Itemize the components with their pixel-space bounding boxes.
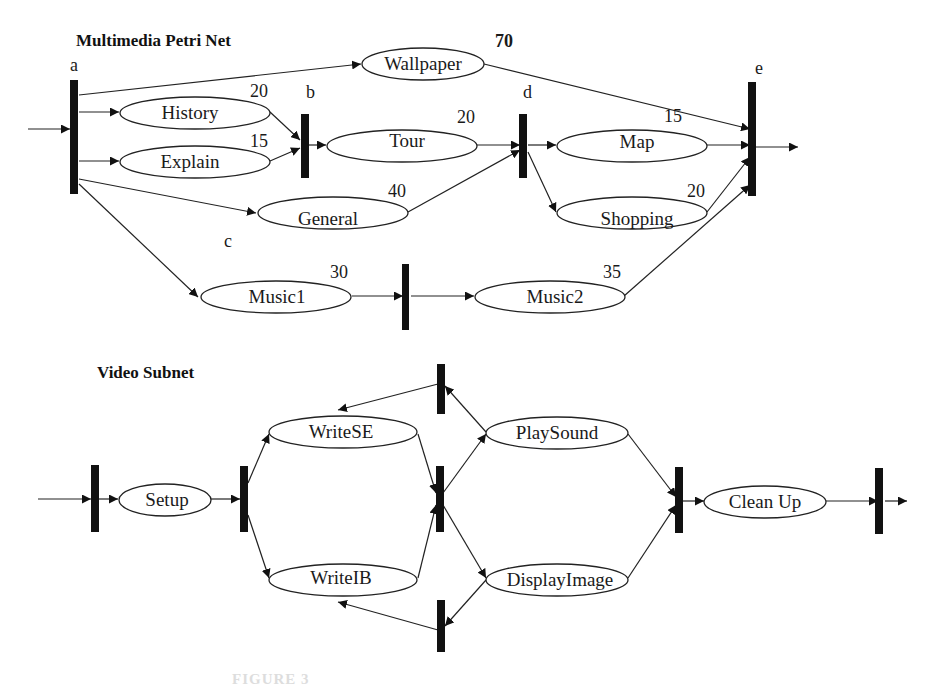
svg-text:History: History — [162, 102, 220, 123]
svg-text:Map: Map — [620, 131, 655, 152]
svg-text:Clean Up: Clean Up — [729, 491, 801, 512]
multimedia-net-title: Multimedia Petri Net — [76, 31, 231, 50]
transition-label-e: e — [755, 58, 763, 78]
place-writeib: WriteIB — [269, 564, 417, 596]
duration-tour: 20 — [457, 107, 475, 127]
place-general: General 40 — [258, 181, 408, 229]
place-displayimage: DisplayImage — [486, 564, 628, 596]
transition-fork — [240, 466, 248, 532]
svg-text:Tour: Tour — [389, 130, 425, 151]
svg-text:DisplayImage: DisplayImage — [507, 569, 614, 590]
arc-displayimage-t6 — [628, 505, 676, 578]
petri-net-diagram: Multimedia Petri Net a b d e c Wallpaper… — [0, 0, 944, 686]
arc-writeib-t4 — [418, 505, 436, 578]
arc-t4-playsound — [443, 434, 486, 493]
duration-music2: 35 — [603, 262, 621, 282]
transition-b — [301, 114, 309, 178]
arc-displayimage-t5 — [445, 580, 486, 626]
transition-e — [748, 82, 756, 196]
arc-t4-displayimage — [443, 505, 486, 578]
place-music2: Music2 35 — [475, 262, 625, 313]
place-playsound: PlaySound — [486, 417, 628, 449]
transition-c — [402, 264, 409, 330]
place-tour: Tour 20 — [327, 107, 477, 162]
transition-sync — [436, 466, 444, 532]
place-music1: Music1 30 — [201, 262, 351, 313]
duration-music1: 30 — [330, 262, 348, 282]
transition-loop-top — [437, 364, 445, 414]
transition-start — [91, 465, 99, 532]
duration-shopping: 20 — [687, 181, 705, 201]
svg-text:WriteIB: WriteIB — [310, 567, 372, 588]
arc-d-shopping — [528, 152, 556, 212]
duration-map: 15 — [664, 106, 682, 126]
svg-text:Explain: Explain — [160, 151, 220, 172]
arc-t2-writese — [248, 434, 269, 483]
arc-a-wallpaper — [79, 64, 361, 95]
transition-a — [70, 80, 78, 194]
place-explain: Explain 15 — [120, 131, 270, 178]
svg-text:Wallpaper: Wallpaper — [384, 53, 462, 74]
transition-loop-bottom — [437, 600, 445, 652]
place-setup: Setup — [119, 484, 211, 516]
transition-join — [675, 467, 683, 533]
svg-text:WriteSE: WriteSE — [309, 421, 374, 442]
place-writese: WriteSE — [269, 416, 417, 448]
place-cleanup: Clean Up — [704, 486, 826, 518]
transition-label-a: a — [70, 55, 78, 75]
svg-text:PlaySound: PlaySound — [516, 422, 599, 443]
svg-text:Setup: Setup — [145, 489, 188, 510]
arc-playsound-t6 — [628, 434, 676, 497]
arc-a-music1 — [79, 184, 198, 297]
arc-t3-writese — [338, 384, 438, 410]
arc-writese-t4 — [418, 434, 436, 493]
arc-playsound-t3 — [445, 386, 486, 432]
arc-explain-b — [270, 148, 300, 161]
place-shopping: Shopping 20 — [557, 181, 707, 229]
svg-text:Music2: Music2 — [527, 286, 584, 307]
figure-caption: FIGURE 3 — [232, 671, 310, 686]
place-map: Map 15 — [557, 106, 707, 162]
transition-label-c: c — [224, 231, 232, 251]
arc-t2-writeib — [248, 515, 269, 578]
transition-end — [875, 468, 883, 534]
arc-history-b — [270, 112, 300, 140]
arc-t5-writeib — [338, 602, 438, 630]
place-wallpaper: Wallpaper 70 — [362, 31, 513, 80]
svg-text:Shopping: Shopping — [601, 208, 674, 229]
duration-explain: 15 — [250, 131, 268, 151]
svg-text:General: General — [298, 208, 358, 229]
duration-history: 20 — [250, 81, 268, 101]
transition-label-d: d — [523, 82, 532, 102]
duration-general: 40 — [388, 181, 406, 201]
transition-d — [519, 114, 527, 178]
svg-text:Music1: Music1 — [249, 286, 306, 307]
duration-wallpaper: 70 — [495, 31, 513, 51]
transition-label-b: b — [306, 82, 315, 102]
video-subnet-title: Video Subnet — [97, 363, 194, 382]
arc-a-general — [79, 179, 256, 213]
